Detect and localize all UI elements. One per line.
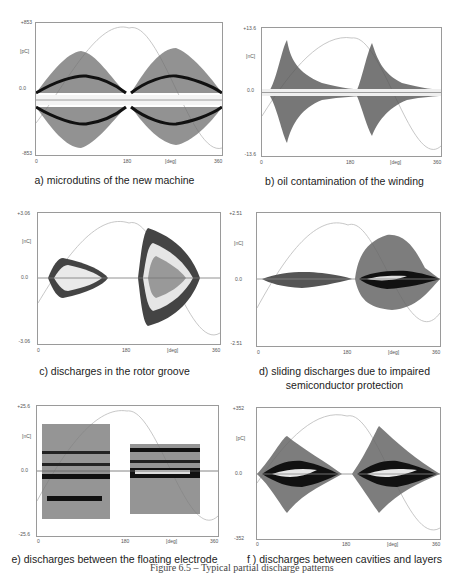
prpd-plot-f [256, 407, 441, 540]
x-tick-360: 360 [432, 541, 440, 547]
y-zero-label: 0.0 [0, 274, 28, 280]
y-min-label: -352 [216, 535, 244, 541]
figure-caption: Figure 6.5 – Typical partial discharge p… [150, 562, 334, 573]
panel-b: +13.6 [nC] 0.0 -13.6 0 180 [deg] 360 b) … [230, 0, 459, 190]
x-unit-label: [deg] [388, 349, 399, 355]
prpd-plot-b [261, 27, 442, 157]
y-zero-label: 0.0 [214, 276, 242, 282]
x-unit-label: [deg] [387, 541, 398, 547]
x-tick-360: 360 [432, 349, 440, 355]
y-max-label: +2.51 [214, 210, 242, 216]
subfigure-caption-b: b) oil contamination of the winding [230, 174, 459, 188]
prpd-plot-e [36, 405, 219, 537]
y-min-label: -3.06 [2, 338, 30, 344]
subfigure-caption-a: a) microdutins of the new machine [0, 173, 229, 187]
y-min-label: -13.6 [228, 151, 256, 157]
panel-a: +853 [pC] 0.0 -853 0 180 [deg] 360 a) mi… [0, 0, 229, 190]
y-zero-label: 0.0 [226, 87, 254, 93]
prpd-plot-d [256, 212, 441, 347]
y-unit-label: [pC] [236, 435, 245, 441]
subfigure-caption-c: c) discharges in the rotor groove [0, 364, 229, 378]
x-tick-0: 0 [37, 538, 40, 544]
panel-c: +3.06 [nC] 0.0 -3.06 0 180 [deg] 360 c) … [0, 190, 229, 380]
y-zero-label: 0.0 [0, 85, 26, 91]
prpd-plot-a [35, 22, 223, 156]
x-unit-label: [deg] [166, 538, 177, 544]
panel-e: +25.6 [nC] 0.0 -25.6 0 180 [deg] 360 e) … [0, 380, 229, 550]
x-tick-360: 360 [433, 159, 441, 165]
y-max-label: +3.06 [2, 210, 30, 216]
x-tick-0: 0 [37, 347, 40, 353]
y-min-label: -25.6 [2, 531, 30, 537]
subfigure-caption-d-line1: d) sliding discharges due to impaired [230, 364, 459, 378]
x-tick-180: 180 [342, 541, 350, 547]
y-unit-label: [nC] [234, 240, 243, 246]
y-unit-label: [nC] [22, 238, 31, 244]
x-unit-label: [deg] [390, 159, 401, 165]
y-max-label: +13.6 [228, 25, 256, 31]
x-tick-0: 0 [35, 158, 38, 164]
y-unit-label: [nC] [22, 433, 31, 439]
y-min-label: -2.51 [214, 340, 242, 346]
x-tick-180: 180 [343, 349, 351, 355]
panel-d: +2.51 [nC] 0.0 -2.51 0 180 [deg] 360 d) … [230, 190, 459, 380]
y-unit-label: [pC] [20, 48, 29, 54]
panel-f: +352 [pC] 0.0 -352 0 180 [deg] 360 f ) d… [230, 380, 459, 550]
y-max-label: +25.6 [2, 403, 30, 409]
x-unit-label: [deg] [167, 347, 178, 353]
y-zero-label: 0.0 [0, 467, 28, 473]
x-tick-360: 360 [214, 158, 222, 164]
x-tick-180: 180 [122, 347, 130, 353]
y-max-label: +853 [4, 19, 32, 25]
x-tick-0: 0 [256, 541, 259, 547]
y-min-label: -853 [4, 150, 32, 156]
prpd-plot-c [37, 212, 221, 345]
y-unit-label: [nC] [246, 53, 255, 59]
x-tick-0: 0 [257, 349, 260, 355]
x-tick-180: 180 [121, 538, 129, 544]
x-tick-180: 180 [346, 159, 354, 165]
x-unit-label: [deg] [165, 158, 176, 164]
y-zero-label: 0.0 [214, 470, 242, 476]
y-max-label: +352 [216, 405, 244, 411]
x-tick-360: 360 [212, 347, 220, 353]
x-tick-0: 0 [260, 159, 263, 165]
x-tick-180: 180 [123, 158, 131, 164]
